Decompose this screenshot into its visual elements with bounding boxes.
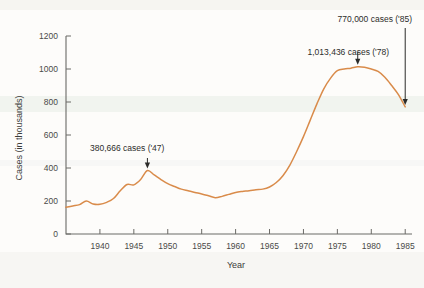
y-tick-label: 400 bbox=[44, 163, 58, 173]
annotation-arrow-head bbox=[145, 162, 150, 168]
x-tick-label: 1980 bbox=[362, 241, 381, 251]
annotation-label-1947: 380,666 cases ('47) bbox=[90, 143, 165, 153]
annotation-label-1985: 770,000 cases ('85) bbox=[338, 14, 413, 24]
x-tick-label: 1940 bbox=[90, 241, 109, 251]
data-series-line bbox=[66, 67, 405, 207]
line-chart-svg: 020040060080010001200 194019451950195519… bbox=[0, 0, 424, 288]
x-tick-label: 1955 bbox=[192, 241, 211, 251]
x-tick-label: 1960 bbox=[226, 241, 245, 251]
x-tick-label: 1975 bbox=[328, 241, 347, 251]
x-tick-label: 1945 bbox=[124, 241, 143, 251]
x-tick-label: 1950 bbox=[158, 241, 177, 251]
y-tick-label: 200 bbox=[44, 196, 58, 206]
x-axis-title: Year bbox=[227, 260, 245, 270]
x-tick-label: 1985 bbox=[396, 241, 415, 251]
y-tick-label: 1200 bbox=[39, 31, 58, 41]
x-tick-label: 1970 bbox=[294, 241, 313, 251]
y-axis-title: Cases (in thousands) bbox=[14, 95, 24, 180]
chart-figure: 020040060080010001200 194019451950195519… bbox=[0, 0, 424, 288]
x-tick-label: 1965 bbox=[260, 241, 279, 251]
chart-axes bbox=[66, 36, 412, 234]
annotation-arrow-head bbox=[355, 59, 360, 65]
x-axis: 1940194519501955196019651970197519801985 bbox=[90, 229, 414, 251]
annotation-label-1978: 1,013,436 cases ('78) bbox=[308, 47, 390, 57]
y-tick-label: 600 bbox=[44, 130, 58, 140]
y-tick-label: 1000 bbox=[39, 64, 58, 74]
y-tick-label: 800 bbox=[44, 97, 58, 107]
y-tick-label: 0 bbox=[53, 229, 58, 239]
